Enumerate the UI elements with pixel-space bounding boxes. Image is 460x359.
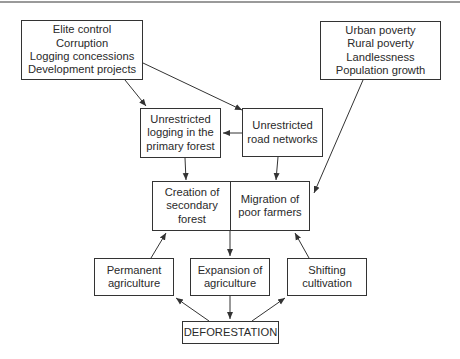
node-text: logging in the [147,126,214,139]
node-shifting-cultivation: Shifting cultivation [287,258,367,296]
arrow-governance-to-logging [125,80,146,106]
arrow-roads-to-migration [276,157,278,180]
node-text: Unrestricted [150,113,210,126]
node-governance: Elite control Corruption Logging concess… [21,20,143,80]
node-migration: Migration of poor farmers [230,181,310,231]
node-text: Corruption [56,37,108,50]
node-text: Logging concessions [30,50,135,63]
node-text: Permanent [107,264,162,277]
node-expansion-agriculture: Expansion of agriculture [190,258,270,296]
node-text: Expansion of [198,264,263,277]
node-text: primary forest [146,140,214,153]
node-text: Unrestricted [252,119,312,132]
node-text: Creation of [165,186,220,199]
deforestation-causes-diagram: Elite control Corruption Logging concess… [0,0,460,359]
node-text: Population growth [336,64,426,77]
node-secondary-forest: Creation of secondary forest [152,181,231,231]
node-text: agriculture [108,277,160,290]
node-text: Elite control [53,23,111,36]
node-text: Landlessness [346,51,414,64]
node-deforestation: DEFORESTATION [182,321,279,344]
arrow-logging-to-secondary-forest [185,158,186,180]
node-text: Urban poverty [345,24,415,37]
node-roads: Unrestricted road networks [242,108,323,157]
node-text: cultivation [302,277,352,290]
arrow-deforestation-to-shifting [252,298,285,321]
node-text: secondary [166,199,218,212]
node-text: agriculture [204,277,256,290]
node-permanent-agriculture: Permanent agriculture [94,258,174,296]
node-text: forest [178,213,206,226]
node-text: Rural poverty [347,37,414,50]
node-text: Shifting [308,264,345,277]
node-logging: Unrestricted logging in the primary fore… [140,108,221,158]
node-text: Development projects [28,63,136,76]
node-text: DEFORESTATION [184,326,277,339]
node-poverty: Urban poverty Rural poverty Landlessness… [320,21,441,80]
arrow-deforestation-to-permanent [176,298,209,321]
node-text: poor farmers [238,206,301,219]
node-text: Migration of [241,193,299,206]
node-text: road networks [247,133,317,146]
arrow-governance-to-roads [143,63,242,110]
arrow-permanent-to-secondary-forest [151,233,166,258]
arrow-shifting-to-migration [295,233,309,258]
